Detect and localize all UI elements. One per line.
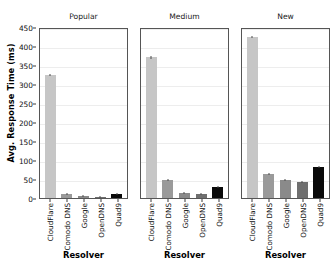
bar-slot	[162, 29, 173, 198]
bar-group	[141, 29, 228, 198]
bar	[146, 57, 157, 198]
x-label-slot: Comodo DNS	[263, 203, 274, 247]
x-tick-label: Google	[281, 203, 290, 228]
plot-area	[241, 28, 330, 199]
x-axis-ticks	[241, 199, 330, 202]
x-tick-label: Google	[79, 203, 88, 228]
x-tick-label: OpenDNS	[96, 203, 105, 238]
chart-panel: PopularCloudFlareComodo DNSGoogleOpenDNS…	[39, 0, 128, 280]
y-tick-mark	[33, 123, 36, 124]
x-label-slot: Quad9	[314, 203, 325, 247]
x-tick-label: CloudFlare	[146, 203, 155, 241]
plot-area	[39, 28, 128, 199]
x-tick-mark	[184, 199, 185, 202]
error-bar	[66, 193, 67, 195]
y-tick-mark	[33, 161, 36, 162]
bar	[45, 75, 56, 198]
x-label-slot: CloudFlare	[44, 203, 55, 247]
bar-group	[40, 29, 127, 198]
x-tick-mark	[218, 199, 219, 202]
chart-figure: Avg. Response Time (ms) 0501001502002503…	[0, 0, 335, 280]
error-bar	[167, 179, 168, 181]
bar	[162, 180, 173, 198]
panel-title: Medium	[140, 12, 229, 21]
x-tick-label: Quad9	[214, 203, 223, 227]
x-tick-mark	[83, 199, 84, 202]
x-tick-mark	[319, 199, 320, 202]
y-tick-label: 300	[19, 81, 33, 90]
panel-title: New	[241, 12, 330, 21]
x-tick-label: Comodo DNS	[163, 203, 172, 251]
bar-slot	[78, 29, 89, 198]
x-axis-title: Resolver	[140, 250, 229, 260]
bar-slot	[111, 29, 122, 198]
x-label-slot: CloudFlare	[145, 203, 156, 247]
x-tick-label: Quad9	[113, 203, 122, 227]
bar-slot	[280, 29, 291, 198]
x-tick-mark	[268, 199, 269, 202]
x-axis-labels: CloudFlareComodo DNSGoogleOpenDNSQuad9	[241, 203, 330, 247]
x-tick-label: Quad9	[315, 203, 324, 227]
bar-slot	[212, 29, 223, 198]
y-tick-label: 400	[19, 43, 33, 52]
x-label-slot: CloudFlare	[246, 203, 257, 247]
x-tick-mark	[302, 199, 303, 202]
x-axis-title: Resolver	[241, 250, 330, 260]
error-bar	[50, 74, 51, 76]
x-axis-title: Resolver	[39, 250, 128, 260]
error-bar	[217, 186, 218, 188]
x-tick-label: CloudFlare	[247, 203, 256, 241]
x-tick-mark	[167, 199, 168, 202]
x-label-slot: Comodo DNS	[61, 203, 72, 247]
bar	[313, 167, 324, 198]
error-bar	[184, 192, 185, 194]
y-tick-mark	[33, 104, 36, 105]
bar-slot	[179, 29, 190, 198]
x-label-slot: Google	[78, 203, 89, 247]
y-tick-label: 100	[19, 157, 33, 166]
x-tick-mark	[100, 199, 101, 202]
x-tick-label: OpenDNS	[298, 203, 307, 238]
x-tick-mark	[49, 199, 50, 202]
bar	[297, 182, 308, 198]
y-tick-label: 450	[19, 24, 33, 33]
error-bar	[100, 196, 101, 198]
y-tick-label: 50	[24, 176, 33, 185]
error-bar	[151, 56, 152, 58]
x-tick-mark	[251, 199, 252, 202]
y-tick-mark	[33, 85, 36, 86]
y-axis-label-text: Avg. Response Time (ms)	[6, 43, 16, 162]
y-tick-label: 350	[19, 62, 33, 71]
error-bar	[116, 193, 117, 195]
x-axis-labels: CloudFlareComodo DNSGoogleOpenDNSQuad9	[39, 203, 128, 247]
x-axis-ticks	[39, 199, 128, 202]
x-label-slot: OpenDNS	[196, 203, 207, 247]
error-bar	[252, 36, 253, 38]
y-tick-mark	[33, 199, 36, 200]
bar-group	[242, 29, 329, 198]
bar-slot	[61, 29, 72, 198]
error-bar	[83, 195, 84, 197]
x-tick-label: Comodo DNS	[62, 203, 71, 251]
x-tick-label: OpenDNS	[197, 203, 206, 238]
x-label-slot: Quad9	[112, 203, 123, 247]
bar	[263, 174, 274, 198]
y-axis-ticks: 050100150200250300350400450	[18, 0, 36, 205]
y-tick-label: 150	[19, 138, 33, 147]
error-bar	[318, 166, 319, 168]
bar-slot	[263, 29, 274, 198]
x-tick-mark	[150, 199, 151, 202]
x-tick-mark	[285, 199, 286, 202]
y-tick-label: 200	[19, 119, 33, 128]
bar-slot	[313, 29, 324, 198]
y-tick-mark	[33, 47, 36, 48]
bar	[280, 180, 291, 198]
y-tick-mark	[33, 66, 36, 67]
x-label-slot: Google	[179, 203, 190, 247]
x-tick-mark	[117, 199, 118, 202]
x-label-slot: Quad9	[213, 203, 224, 247]
bar-slot	[146, 29, 157, 198]
error-bar	[268, 173, 269, 175]
x-axis-labels: CloudFlareComodo DNSGoogleOpenDNSQuad9	[140, 203, 229, 247]
bar-slot	[45, 29, 56, 198]
